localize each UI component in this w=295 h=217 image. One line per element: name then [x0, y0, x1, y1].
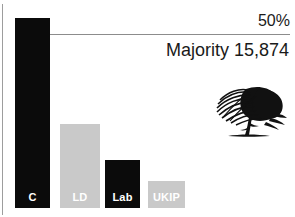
bar-label-ukip: UKIP [153, 192, 180, 208]
bar-lab: Lab [105, 160, 140, 208]
threshold-line-50 [50, 34, 290, 35]
bar-label-c: C [28, 192, 36, 208]
election-bar-chart: C LD Lab UKIP 50% Majority 15,874 [0, 0, 295, 217]
bar-c: C [15, 18, 50, 208]
threshold-label-50: 50% [258, 13, 290, 29]
bar-ukip: UKIP [148, 181, 185, 208]
bar-label-lab: Lab [112, 192, 132, 208]
majority-label: Majority 15,874 [166, 41, 289, 59]
oak-tree-logo [206, 83, 288, 141]
bar-label-ld: LD [72, 192, 87, 208]
bar-ld: LD [60, 124, 100, 208]
